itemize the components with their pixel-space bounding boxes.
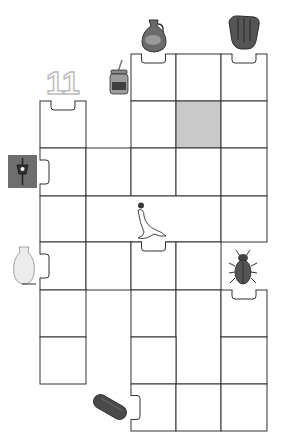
seal-with-ball-icon[interactable] bbox=[130, 202, 170, 242]
puzzle-board: 11 bbox=[0, 0, 281, 448]
number-eleven-icon[interactable]: 11 bbox=[46, 66, 80, 98]
log-icon[interactable] bbox=[90, 390, 130, 424]
grid-cell[interactable] bbox=[131, 242, 176, 290]
grid-cell[interactable] bbox=[40, 290, 86, 337]
grid-cell[interactable] bbox=[131, 290, 176, 337]
grid-cell[interactable] bbox=[221, 54, 267, 101]
grid-cell[interactable] bbox=[40, 337, 86, 384]
vase-icon[interactable] bbox=[10, 246, 38, 286]
grid-cell[interactable] bbox=[131, 54, 176, 101]
grid-cell[interactable] bbox=[40, 196, 86, 242]
grid-cell[interactable] bbox=[221, 196, 267, 242]
grid-cell[interactable] bbox=[176, 54, 221, 101]
grid-cell[interactable] bbox=[131, 384, 176, 431]
notch-gap bbox=[39, 255, 41, 278]
number-eleven-text: 11 bbox=[46, 66, 80, 98]
grid-cell[interactable] bbox=[176, 290, 221, 384]
beetle-icon[interactable] bbox=[228, 248, 258, 288]
notch-gap bbox=[233, 289, 256, 291]
grid-cell[interactable] bbox=[40, 148, 86, 196]
grid-cell[interactable] bbox=[86, 148, 131, 196]
notch-gap bbox=[52, 100, 75, 102]
grid-cell[interactable] bbox=[176, 101, 221, 148]
grid-cell[interactable] bbox=[40, 242, 86, 290]
grid-cell[interactable] bbox=[221, 101, 267, 148]
grid-cell[interactable] bbox=[86, 242, 131, 290]
grid-cell[interactable] bbox=[221, 337, 267, 384]
grid-cell[interactable] bbox=[131, 337, 176, 384]
grid-cell[interactable] bbox=[221, 384, 267, 431]
grid-cell[interactable] bbox=[176, 242, 221, 290]
grid-cell[interactable] bbox=[131, 101, 176, 148]
grid-cell[interactable] bbox=[221, 148, 267, 196]
grid-cell[interactable] bbox=[131, 148, 176, 196]
grid-cell[interactable] bbox=[176, 148, 221, 196]
baseball-glove-icon[interactable] bbox=[226, 14, 260, 50]
grid-cell[interactable] bbox=[176, 384, 221, 431]
grid-cell[interactable] bbox=[40, 101, 86, 148]
jam-jar-icon[interactable] bbox=[108, 58, 130, 96]
notch-gap bbox=[130, 396, 132, 419]
grid-cell[interactable] bbox=[221, 290, 267, 337]
lantern-icon[interactable] bbox=[8, 155, 37, 188]
jug-icon[interactable] bbox=[138, 18, 170, 54]
notch-gap bbox=[39, 161, 41, 184]
notch-gap bbox=[233, 53, 256, 55]
